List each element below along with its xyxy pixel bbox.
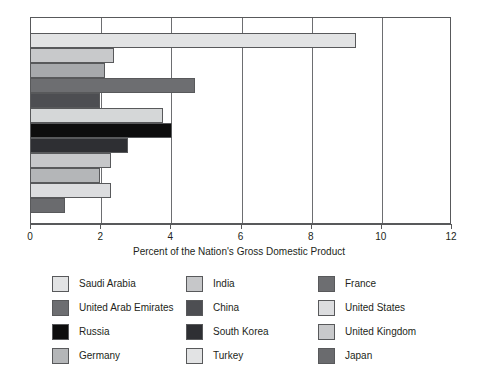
- legend-item[interactable]: India: [186, 272, 269, 296]
- legend-item-label: United Arab Emirates: [79, 302, 174, 314]
- legend-item[interactable]: South Korea: [186, 320, 269, 344]
- x-tick-label: 6: [238, 231, 244, 243]
- bar-row: [30, 33, 451, 48]
- legend-swatch-icon: [186, 300, 203, 316]
- legend-item[interactable]: Saudi Arabia: [52, 272, 174, 296]
- bar-row: [30, 63, 451, 78]
- x-tick-label: 0: [27, 231, 33, 243]
- bar-turkey: [30, 153, 111, 168]
- legend-item-label: Japan: [345, 350, 372, 362]
- legend-column-3: FranceUnited StatesUnited KingdomJapan: [318, 272, 416, 368]
- bar-row: [30, 93, 451, 108]
- legend-item[interactable]: United Kingdom: [318, 320, 416, 344]
- x-axis-title: Percent of the Nation's Gross Domestic P…: [0, 246, 478, 258]
- bar-series: [30, 33, 451, 213]
- legend-swatch-icon: [186, 348, 203, 364]
- legend-item-label: Russia: [79, 326, 110, 338]
- legend-swatch-icon: [318, 348, 335, 364]
- legend-item[interactable]: Russia: [52, 320, 174, 344]
- x-tick-label: 2: [97, 231, 103, 243]
- legend-item[interactable]: Turkey: [186, 344, 269, 368]
- legend-swatch-icon: [186, 276, 203, 292]
- bar-row: [30, 168, 451, 183]
- x-tick: [311, 224, 312, 229]
- legend-swatch-icon: [318, 276, 335, 292]
- bar-united-arab-emirates: [30, 48, 114, 63]
- bar-south-korea: [30, 138, 128, 153]
- legend-swatch-icon: [52, 300, 69, 316]
- bar-row: [30, 138, 451, 153]
- x-tick: [451, 224, 452, 229]
- x-tick: [100, 224, 101, 229]
- bar-row: [30, 78, 451, 93]
- x-tick: [241, 224, 242, 229]
- legend-swatch-icon: [52, 276, 69, 292]
- chart-legend: Saudi ArabiaUnited Arab EmiratesRussiaGe…: [0, 272, 478, 372]
- bar-china: [30, 123, 172, 138]
- legend-item[interactable]: China: [186, 296, 269, 320]
- legend-item-label: Germany: [79, 350, 120, 362]
- legend-swatch-icon: [186, 324, 203, 340]
- legend-item-label: United States: [345, 302, 405, 314]
- bar-germany: [30, 93, 100, 108]
- legend-item[interactable]: United States: [318, 296, 416, 320]
- legend-item-label: United Kingdom: [345, 326, 416, 338]
- bar-row: [30, 123, 451, 138]
- legend-item[interactable]: Germany: [52, 344, 174, 368]
- bar-united-states: [30, 168, 100, 183]
- legend-item-label: Saudi Arabia: [79, 278, 136, 290]
- legend-swatch-icon: [318, 300, 335, 316]
- bar-japan: [30, 198, 65, 213]
- legend-item[interactable]: Japan: [318, 344, 416, 368]
- x-tick: [30, 224, 31, 229]
- bar-row: [30, 153, 451, 168]
- x-tick-label: 10: [375, 231, 386, 243]
- legend-item-label: South Korea: [213, 326, 269, 338]
- bar-united-kingdom: [30, 183, 111, 198]
- legend-column-2: IndiaChinaSouth KoreaTurkey: [186, 272, 269, 368]
- bar-row: [30, 48, 451, 63]
- x-tick-label: 12: [445, 231, 456, 243]
- bar-row: [30, 198, 451, 213]
- legend-column-1: Saudi ArabiaUnited Arab EmiratesRussiaGe…: [52, 272, 174, 368]
- bar-chart-figure: 024681012 Percent of the Nation's Gross …: [0, 0, 478, 376]
- legend-item-label: China: [213, 302, 239, 314]
- legend-item[interactable]: United Arab Emirates: [52, 296, 174, 320]
- legend-item-label: France: [345, 278, 376, 290]
- legend-swatch-icon: [52, 324, 69, 340]
- bar-france: [30, 78, 195, 93]
- legend-swatch-icon: [318, 324, 335, 340]
- legend-swatch-icon: [52, 348, 69, 364]
- x-tick: [170, 224, 171, 229]
- legend-item[interactable]: France: [318, 272, 416, 296]
- bar-india: [30, 108, 163, 123]
- bar-saudi-arabia: [30, 33, 356, 48]
- legend-item-label: Turkey: [213, 350, 243, 362]
- legend-item-label: India: [213, 278, 235, 290]
- x-tick: [381, 224, 382, 229]
- bar-russia: [30, 63, 105, 78]
- bar-row: [30, 183, 451, 198]
- x-tick-label: 4: [168, 231, 174, 243]
- x-tick-label: 8: [308, 231, 314, 243]
- bar-row: [30, 108, 451, 123]
